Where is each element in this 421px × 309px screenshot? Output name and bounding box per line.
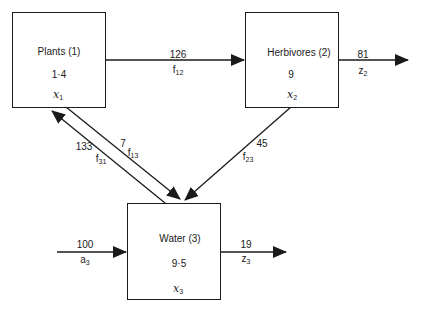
arrow-f23 (185, 107, 291, 200)
flow-z3-symbol: z3 (242, 254, 251, 265)
herbivores-name: Herbivores (2) (267, 48, 330, 58)
water-variable: x3 (173, 283, 183, 295)
flow-z3-value: 19 (240, 240, 251, 250)
plants-value: 1·4 (52, 70, 66, 80)
flow-a3-symbol: a3 (80, 255, 89, 266)
flow-f13-value: 7 (120, 139, 126, 149)
plants-name: Plants (1) (38, 47, 81, 57)
water-name: Water (3) (159, 234, 200, 244)
arrow-f13 (66, 107, 180, 199)
flow-f13-symbol: f13 (128, 148, 139, 159)
flow-f31-symbol: f31 (96, 154, 107, 165)
flow-f12-value: 126 (170, 50, 187, 60)
herbivores-value: 9 (288, 70, 294, 80)
plants-variable: x1 (53, 89, 63, 101)
flow-f31-value: 133 (76, 142, 93, 152)
herbivores-variable: x2 (287, 89, 297, 101)
flow-z2-symbol: z2 (359, 66, 368, 77)
arrow-f31 (52, 111, 165, 203)
flow-a3-value: 100 (77, 240, 94, 250)
flow-f23-value: 45 (256, 139, 267, 149)
flow-f12-symbol: f12 (173, 65, 184, 76)
flow-f23-symbol: f23 (243, 152, 254, 163)
water-value: 9·5 (172, 259, 186, 269)
flow-z2-value: 81 (357, 50, 368, 60)
